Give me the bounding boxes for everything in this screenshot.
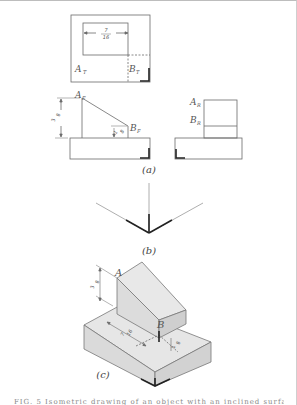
- isometric-object: [84, 262, 211, 386]
- front-height-numerator: 3: [50, 118, 56, 121]
- technical-drawing: A T B T 7 16 A F B F 3 8 1 8 A R B R (a)…: [0, 0, 297, 405]
- front-view-corner-marker: [140, 148, 149, 158]
- front-height-arrow-top: [60, 99, 62, 102]
- front-label-a: A: [74, 90, 82, 100]
- iso-height-arrow-top: [99, 268, 101, 271]
- iso-small-denominator: 8: [175, 341, 181, 344]
- iso-small-numerator: 1: [170, 345, 176, 348]
- caption-a: (a): [142, 164, 156, 175]
- right-label-b-sub: R: [196, 120, 201, 126]
- iso-label-a: A: [114, 267, 122, 278]
- front-label-b-sub: F: [136, 128, 141, 134]
- iso-height-ext-bottom: [96, 296, 113, 306]
- top-dim-denominator: 16: [103, 34, 109, 40]
- top-label-b: B: [128, 64, 136, 74]
- top-label-b-sub: T: [136, 69, 140, 75]
- top-dim-arrow-right: [125, 32, 128, 34]
- right-view-block: [204, 100, 237, 138]
- figure-caption: FIG. 5 Isometric drawing of an object wi…: [14, 398, 284, 405]
- front-label-b: B: [129, 123, 137, 133]
- front-view-base: [70, 138, 150, 159]
- right-view-corner-marker: [176, 149, 185, 158]
- right-view: [175, 100, 242, 159]
- top-dim-numerator: 7: [104, 27, 108, 33]
- iso-label-b: B: [156, 319, 164, 330]
- axis-left-bold: [126, 220, 149, 233]
- right-label-b: B: [189, 115, 197, 125]
- top-dim-arrow-left: [84, 32, 87, 34]
- front-height-arrow-bottom: [60, 134, 62, 137]
- front-height-denominator: 8: [55, 113, 61, 116]
- right-label-a-sub: R: [196, 102, 201, 108]
- right-view-base: [175, 138, 242, 159]
- right-label-a: A: [189, 97, 197, 107]
- iso-height-ext-top: [96, 265, 117, 278]
- isometric-axes: [96, 183, 203, 233]
- iso-height-dim-text: 3 8: [89, 280, 100, 288]
- iso-height-numerator: 3: [89, 285, 95, 288]
- top-label-a: A: [74, 64, 82, 74]
- front-small-denominator: 8: [118, 128, 125, 134]
- front-height-dim-text: 3 8: [50, 113, 61, 121]
- caption-c: (c): [96, 369, 110, 380]
- axis-right-bold: [149, 220, 172, 233]
- top-view-corner-marker: [140, 68, 149, 81]
- iso-height-arrow-bottom: [99, 298, 101, 301]
- caption-b: (b): [142, 245, 156, 256]
- front-label-a-sub: F: [81, 95, 86, 101]
- top-label-a-sub: T: [83, 69, 87, 75]
- iso-height-denominator: 8: [94, 280, 100, 283]
